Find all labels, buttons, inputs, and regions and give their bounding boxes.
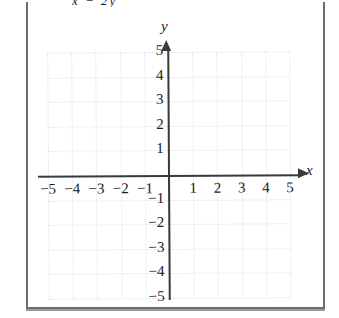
y-tick-label: 3 — [139, 91, 163, 108]
y-tick-label: 5 — [139, 42, 163, 59]
x-tick-label: 4 — [254, 179, 278, 196]
x-tick-label: −4 — [60, 181, 84, 198]
y-tick-label: 2 — [140, 116, 164, 133]
worksheet-figure: x − 2y −5−4−3−2−112345 54321−1−2−3−4−5 x… — [0, 0, 339, 318]
y-tick-label: −2 — [140, 214, 164, 231]
x-tick-label: 2 — [205, 180, 229, 197]
coordinate-plane: −5−4−3−2−112345 54321−1−2−3−4−5 — [47, 51, 290, 298]
figure-border-shadow — [26, 309, 325, 311]
x-tick-label: 5 — [278, 179, 302, 196]
y-tick-label: 4 — [139, 67, 163, 84]
y-tick-label: −5 — [141, 288, 165, 305]
y-tick-label: −1 — [140, 190, 164, 207]
x-tick-label: −3 — [84, 180, 108, 197]
x-tick-label: −2 — [109, 180, 133, 197]
y-tick-label: 1 — [140, 140, 164, 157]
y-tick-label: −3 — [140, 239, 164, 256]
x-axis-label: x — [306, 162, 313, 179]
y-axis-label: y — [161, 18, 168, 35]
x-tick-label: 1 — [181, 180, 205, 197]
y-tick-label: −4 — [141, 263, 165, 280]
x-tick-label: −5 — [36, 181, 60, 198]
x-tick-label: 3 — [230, 179, 254, 196]
